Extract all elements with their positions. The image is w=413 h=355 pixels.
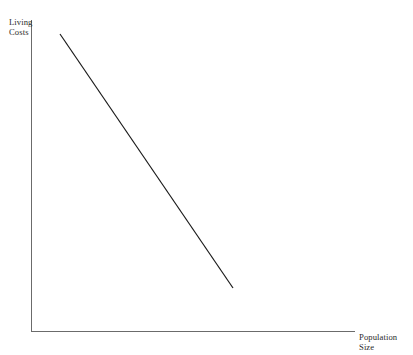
- chart-canvas: Living Costs Population Size: [0, 0, 413, 355]
- data-series-line: [60, 34, 233, 288]
- plot-area: [0, 0, 413, 355]
